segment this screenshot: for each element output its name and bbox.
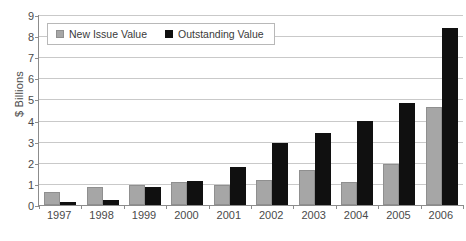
bar-2006-outstanding-value: [442, 28, 458, 205]
bar-1997-outstanding-value: [60, 202, 76, 205]
bar-group: [421, 15, 463, 205]
bar-2000-new-issue-value: [171, 182, 187, 205]
x-tick-mark: [463, 205, 464, 209]
bar-chart: $ Billions 0123456789 199719981999200020…: [0, 0, 466, 241]
bar-2003-outstanding-value: [315, 133, 331, 205]
bar-1998-outstanding-value: [103, 200, 119, 205]
bar-group: [336, 15, 378, 205]
x-tick-label-1999: 1999: [123, 209, 165, 221]
y-tick-label: 7: [28, 52, 34, 64]
bar-2002-outstanding-value: [272, 143, 288, 205]
x-tick-label-2000: 2000: [165, 209, 207, 221]
y-tick-label: 9: [28, 10, 34, 22]
x-axis-labels: 1997199819992000200120022003200420052006: [38, 209, 462, 221]
y-tick-label: 0: [28, 200, 34, 212]
x-tick-label-2005: 2005: [377, 209, 419, 221]
legend-label-new-issue-value: New Issue Value: [69, 28, 147, 40]
x-tick-label-2006: 2006: [420, 209, 462, 221]
bar-2002-new-issue-value: [256, 180, 272, 205]
x-tick-label-2001: 2001: [208, 209, 250, 221]
x-tick-label-2002: 2002: [250, 209, 292, 221]
bar-2001-outstanding-value: [230, 167, 246, 205]
x-tick-label-1998: 1998: [80, 209, 122, 221]
y-tick-label: 4: [28, 116, 34, 128]
bar-1999-new-issue-value: [129, 185, 145, 205]
y-axis-title: $ Billions: [13, 34, 25, 154]
bar-2000-outstanding-value: [187, 181, 203, 205]
bar-1998-new-issue-value: [87, 187, 103, 205]
y-tick-label: 3: [28, 137, 34, 149]
y-tick-label: 1: [28, 179, 34, 191]
bar-2003-new-issue-value: [299, 170, 315, 205]
legend-item-new-issue-value: New Issue Value: [56, 28, 147, 40]
legend-swatch-icon-new-issue-value: [56, 30, 64, 38]
bar-group: [378, 15, 420, 205]
x-tick-label-2004: 2004: [335, 209, 377, 221]
bar-2005-new-issue-value: [383, 164, 399, 205]
bar-2004-new-issue-value: [341, 182, 357, 205]
y-tick-label: 6: [28, 73, 34, 85]
x-tick-label-1997: 1997: [38, 209, 80, 221]
legend-swatch-icon-outstanding-value: [165, 30, 173, 38]
y-tick-label: 8: [28, 31, 34, 43]
y-tick-label: 5: [28, 94, 34, 106]
bar-2006-new-issue-value: [426, 107, 442, 205]
bar-1997-new-issue-value: [44, 192, 60, 205]
bar-2004-outstanding-value: [357, 121, 373, 205]
x-tick-label-2003: 2003: [292, 209, 334, 221]
legend-label-outstanding-value: Outstanding Value: [178, 28, 264, 40]
bar-1999-outstanding-value: [145, 187, 161, 205]
legend-item-outstanding-value: Outstanding Value: [165, 28, 264, 40]
bar-group: [293, 15, 335, 205]
legend: New Issue Value Outstanding Value: [47, 23, 275, 45]
bar-2001-new-issue-value: [214, 185, 230, 205]
y-tick-label: 2: [28, 158, 34, 170]
bar-2005-outstanding-value: [399, 103, 415, 205]
